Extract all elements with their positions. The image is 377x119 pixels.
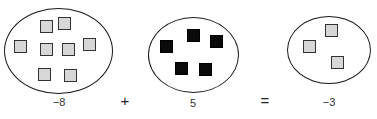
negative-tile [40,43,53,56]
negative-tile [38,68,51,81]
negative-tile [40,20,53,33]
result-value-label: −3 [309,96,349,108]
negative-tile [58,17,71,30]
positive-tile [160,40,173,53]
negative-tile [83,38,96,51]
right-value-label: 5 [173,97,213,109]
negative-tile [62,43,75,56]
negative-tile [64,69,77,82]
negative-tile [303,40,316,53]
equals-operator: = [255,92,275,109]
negative-tile [331,56,344,69]
positive-tile [199,63,212,76]
negative-tile [14,40,27,53]
positive-tile [210,35,223,48]
positive-tile [175,62,188,75]
negative-tile [325,24,338,37]
positive-tile [187,29,200,42]
left-value-label: −8 [39,96,79,108]
plus-operator: + [115,92,135,109]
